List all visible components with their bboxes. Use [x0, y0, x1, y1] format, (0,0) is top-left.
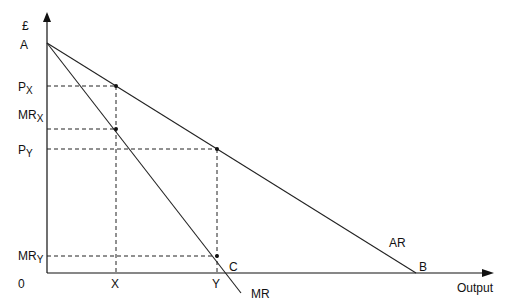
px-label: PX — [18, 81, 33, 96]
py-main: P — [18, 143, 26, 157]
mry-sub: Y — [37, 254, 44, 265]
guide-lines — [47, 86, 217, 273]
origin-label: 0 — [18, 278, 25, 290]
py-sub: Y — [26, 148, 33, 159]
mry-main: MR — [18, 249, 37, 263]
px-main: P — [18, 80, 26, 94]
x-tick-y: Y — [212, 278, 220, 290]
mrx-label: MRX — [18, 109, 43, 124]
mr-curve-label: MR — [251, 288, 270, 300]
px-sub: X — [26, 85, 33, 96]
ar-curve — [47, 43, 416, 273]
intersection-dots — [114, 84, 219, 258]
point-b-label: B — [419, 261, 427, 273]
x-axis-label: Output — [457, 282, 493, 294]
mrx-sub: X — [37, 113, 44, 124]
point-a-label: A — [20, 39, 28, 51]
y-axis-label: £ — [22, 20, 29, 32]
mry-label: MRY — [18, 250, 43, 265]
x-tick-x: X — [111, 278, 119, 290]
ar-curve-label: AR — [389, 237, 406, 249]
diagram-canvas — [0, 0, 510, 308]
mrx-main: MR — [18, 108, 37, 122]
py-label: PY — [18, 144, 33, 159]
point-c-label: C — [229, 261, 238, 273]
y-axis — [43, 12, 51, 273]
